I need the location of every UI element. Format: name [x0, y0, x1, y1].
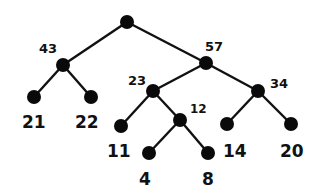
tree-node-n43 [56, 58, 70, 72]
node-label: 23 [128, 73, 146, 88]
node-label: 11 [107, 141, 131, 161]
node-label: 43 [39, 41, 57, 56]
node-label: 34 [270, 76, 288, 91]
node-label: 21 [22, 112, 46, 132]
node-label: 20 [280, 141, 304, 161]
node-label: 14 [223, 141, 247, 161]
node-label: 22 [75, 112, 99, 132]
tree-edge [63, 22, 127, 65]
tree-edge [258, 91, 291, 124]
binary-tree-diagram: 4357212223341112142048 [0, 0, 322, 193]
node-label: 8 [202, 169, 214, 189]
tree-node-n23 [146, 84, 160, 98]
tree-edge [206, 63, 258, 91]
node-label: 57 [205, 39, 223, 54]
tree-edge [121, 91, 153, 126]
tree-node-n20 [284, 117, 298, 131]
tree-node-n12 [173, 113, 187, 127]
tree-node-n57 [199, 56, 213, 70]
tree-node-n11 [114, 119, 128, 133]
tree-node-n22 [84, 90, 98, 104]
tree-node-root [120, 15, 134, 29]
tree-node-n8 [201, 146, 215, 160]
tree-node-n21 [27, 90, 41, 104]
tree-node-n14 [220, 117, 234, 131]
tree-node-n34 [251, 84, 265, 98]
tree-edge [153, 63, 206, 91]
tree-edge [127, 22, 206, 63]
tree-node-n4 [142, 146, 156, 160]
node-label: 12 [190, 102, 207, 116]
node-label: 4 [139, 169, 151, 189]
